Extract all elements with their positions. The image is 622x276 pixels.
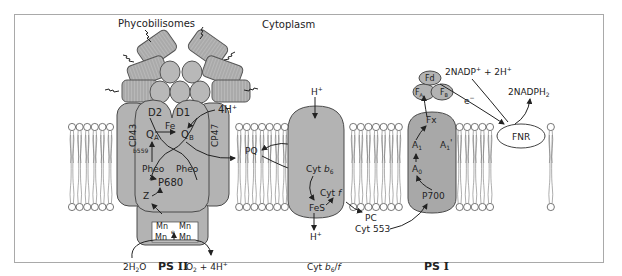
pq-label: PQ: [245, 146, 258, 156]
p680-label: P680: [158, 177, 183, 188]
b559-label: b559: [133, 147, 148, 154]
cyt553-label: Cyt 553: [355, 224, 390, 234]
phycobilisome-antenna: Phycobilisomes: [105, 18, 258, 103]
cytoplasm-label: Cytoplasm: [262, 19, 315, 30]
ps1-title: PS I: [424, 260, 449, 273]
photosynthesis-diagram: Phycobilisomes Cytoplasm CP43 CP47 D2 D1…: [0, 0, 622, 276]
mn-label: Mn: [155, 233, 167, 242]
cyt-h-out-label: H+: [310, 230, 322, 242]
pheo-right-label: Pheo: [176, 164, 199, 174]
fes-label: FeS: [309, 203, 325, 213]
cyt-h-in-label: H+: [311, 85, 323, 97]
fe-label: Fe: [165, 121, 176, 131]
p700-label: P700: [422, 191, 445, 201]
mn-label: Mn: [179, 222, 191, 231]
cyt-b6-label: Cyt b6: [306, 164, 334, 175]
light-arrow-icon: [123, 55, 134, 62]
diagram-canvas: Phycobilisomes Cytoplasm CP43 CP47 D2 D1…: [0, 0, 622, 276]
d2-label: D2: [148, 107, 162, 118]
mn-label: Mn: [179, 233, 191, 242]
z-label: Z: [143, 191, 149, 201]
cp47-label: CP47: [210, 124, 220, 147]
fnr-label: FNR: [512, 132, 530, 142]
pc-label: PC: [365, 213, 377, 223]
o2-label: O2 + 4H+: [186, 260, 228, 273]
d1-label: D1: [176, 107, 190, 118]
ps2-4h-label: 4H+: [218, 103, 237, 115]
phycobilisomes-label: Phycobilisomes: [118, 18, 195, 29]
mn-label: Mn: [156, 222, 168, 231]
photosystem-2: CP43 CP47 D2 D1 Fe QA QB b559 Pheo Pheo …: [117, 100, 237, 273]
fx-label: Fx: [426, 115, 437, 125]
nadp-label: 2NADP+ + 2H+: [445, 65, 512, 77]
cp43-label: CP43: [128, 124, 138, 147]
cyt-f-label: Cyt f: [320, 188, 343, 198]
ps2-title: PS II: [158, 260, 188, 273]
cytb6f-title: Cyt b6/f: [307, 262, 343, 273]
light-arrow-icon: [105, 89, 119, 92]
fd-label: Fd: [425, 74, 435, 83]
h2o-label: 2H2O: [123, 262, 146, 273]
nadph-label: 2NADPH2: [508, 87, 550, 98]
pheo-left-label: Pheo: [142, 164, 165, 174]
